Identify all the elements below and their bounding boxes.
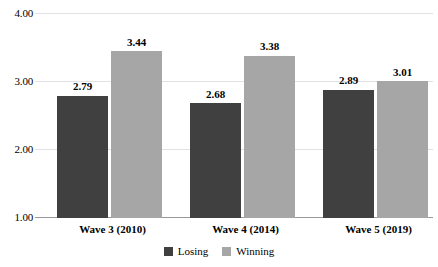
legend-label: Winning (236, 246, 274, 257)
legend-swatch-icon (222, 247, 231, 256)
bar-value-label: 2.79 (48, 81, 117, 92)
x-tick-label: Wave 5 (2019) (323, 222, 434, 236)
bar-winning[interactable] (111, 51, 162, 218)
bar-value-label: 3.44 (102, 37, 171, 48)
bar-losing[interactable] (323, 90, 374, 218)
bar-group: 2.89 3.01 (323, 13, 434, 218)
legend-item-winning[interactable]: Winning (222, 246, 274, 257)
x-tick-label: Wave 3 (2010) (57, 222, 168, 236)
grouped-bar-chart: 4.00 3.00 2.00 1.00 2.79 3.44 2.68 3.38 … (0, 0, 438, 267)
bar-value-label: 2.68 (181, 89, 250, 100)
bar-winning[interactable] (377, 81, 428, 218)
bar-value-label: 3.38 (235, 41, 304, 52)
y-tick-label: 2.00 (1, 144, 33, 155)
y-tick-label: 3.00 (1, 76, 33, 87)
legend-item-losing[interactable]: Losing (164, 246, 209, 257)
x-axis: Wave 3 (2010) Wave 4 (2014) Wave 5 (2019… (35, 222, 433, 238)
bar-value-label: 3.01 (368, 67, 437, 78)
y-tick-label: 1.00 (1, 212, 33, 223)
y-tick-label: 4.00 (1, 8, 33, 19)
legend: Losing Winning (0, 246, 438, 257)
legend-label: Losing (178, 246, 209, 257)
bar-winning[interactable] (244, 56, 295, 219)
bar-losing[interactable] (57, 96, 108, 218)
bar-group: 2.79 3.44 (57, 13, 168, 218)
legend-swatch-icon (164, 247, 173, 256)
x-tick-label: Wave 4 (2014) (190, 222, 301, 236)
y-axis: 4.00 3.00 2.00 1.00 (0, 13, 33, 218)
plot-area: 2.79 3.44 2.68 3.38 2.89 3.01 (35, 13, 433, 218)
bar-group: 2.68 3.38 (190, 13, 301, 218)
bar-losing[interactable] (190, 103, 241, 218)
